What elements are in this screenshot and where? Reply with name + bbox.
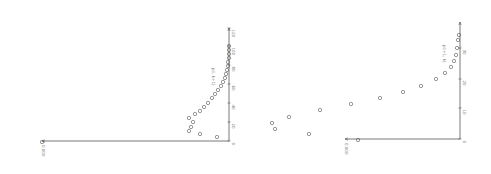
tick-label: 20 bbox=[231, 124, 236, 130]
data-point-marker bbox=[198, 109, 201, 112]
data-point-marker bbox=[456, 38, 459, 41]
data-point-marker bbox=[349, 102, 352, 105]
data-point-marker bbox=[213, 92, 216, 95]
data-point-marker bbox=[221, 80, 224, 83]
data-point-marker bbox=[452, 59, 455, 62]
data-point-marker bbox=[378, 96, 381, 99]
series-annotation: p(i+1, k) bbox=[442, 45, 447, 63]
data-point-marker bbox=[443, 71, 446, 74]
data-point-marker bbox=[187, 129, 190, 132]
right-scatter-plot: 01020300.000p(i+1, k) bbox=[270, 22, 467, 155]
figure-canvas: 0204060801001200.000p(i, k+1) 01020300.0… bbox=[0, 0, 491, 174]
data-point-marker bbox=[187, 116, 190, 119]
tick-label: 100 bbox=[231, 48, 236, 56]
data-point-marker bbox=[270, 121, 273, 124]
data-point-marker bbox=[419, 84, 422, 87]
tick-label: 10 bbox=[462, 110, 467, 116]
data-point-marker bbox=[307, 132, 310, 135]
left-scatter-plot: 0204060801001200.000p(i, k+1) bbox=[40, 28, 236, 157]
data-point-marker bbox=[216, 88, 219, 91]
data-point-marker bbox=[202, 105, 205, 108]
data-point-marker bbox=[191, 120, 194, 123]
series-annotation: p(i, k+1) bbox=[211, 68, 216, 86]
tick-label: 20 bbox=[462, 81, 467, 87]
origin-label: 0.000 bbox=[41, 145, 46, 157]
data-point-marker bbox=[273, 127, 276, 130]
data-point-marker bbox=[193, 112, 196, 115]
tick-label: 80 bbox=[231, 67, 236, 73]
data-point-marker bbox=[225, 68, 228, 71]
data-point-marker bbox=[287, 115, 290, 118]
data-point-marker bbox=[401, 90, 404, 93]
data-point-marker bbox=[215, 135, 218, 138]
data-point-marker bbox=[455, 46, 458, 49]
tick-label: 0 bbox=[231, 143, 236, 146]
tick-label: 120 bbox=[231, 30, 236, 38]
tick-label: 40 bbox=[231, 105, 236, 111]
data-point-marker bbox=[224, 72, 227, 75]
origin-label: 0.000 bbox=[344, 143, 349, 155]
data-point-marker bbox=[223, 76, 226, 79]
data-point-marker bbox=[219, 84, 222, 87]
tick-label: 60 bbox=[231, 86, 236, 92]
tick-label: 0 bbox=[462, 141, 467, 144]
data-point-marker bbox=[210, 96, 213, 99]
data-point-marker bbox=[318, 108, 321, 111]
tick-label: 30 bbox=[462, 50, 467, 56]
data-point-marker bbox=[434, 77, 437, 80]
data-point-marker bbox=[454, 53, 457, 56]
data-point-marker bbox=[198, 132, 201, 135]
data-point-marker bbox=[189, 125, 192, 128]
data-point-marker bbox=[449, 65, 452, 68]
data-point-marker bbox=[206, 101, 209, 104]
